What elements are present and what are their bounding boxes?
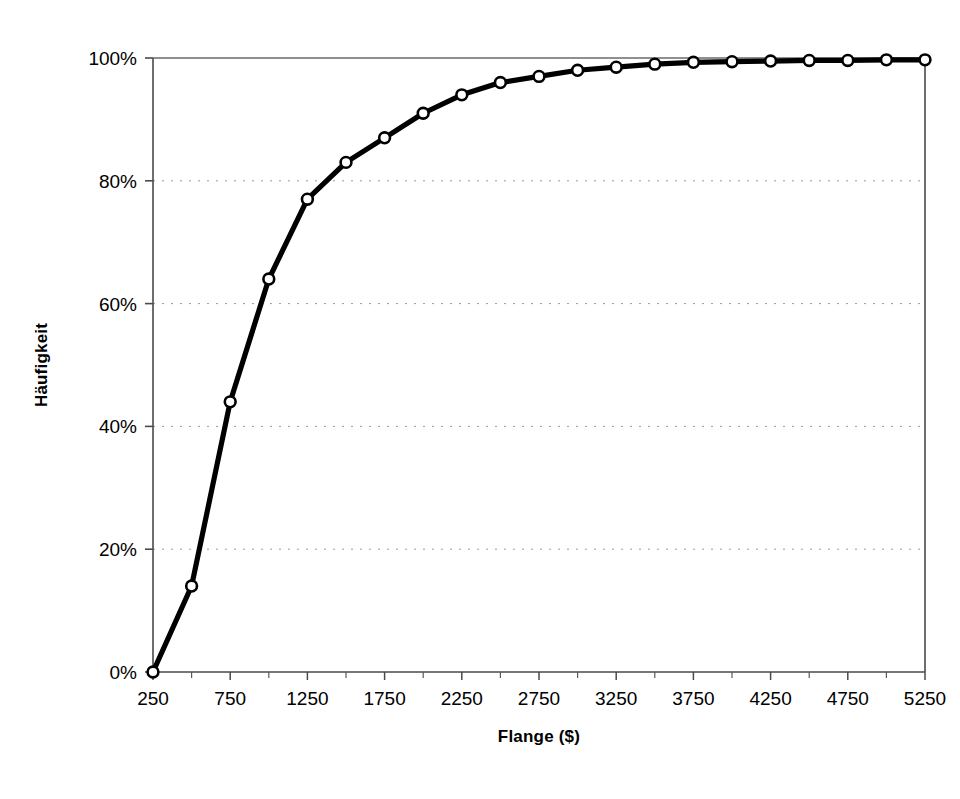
data-point-marker[interactable] [186, 581, 197, 592]
x-axis-tick-label: 3250 [595, 688, 637, 709]
y-axis-tick-label: 60% [99, 294, 137, 315]
x-axis-tick-label: 3750 [672, 688, 714, 709]
data-point-marker[interactable] [534, 71, 545, 82]
y-axis-tick-label: 100% [88, 48, 137, 69]
data-point-marker[interactable] [495, 77, 506, 88]
x-axis-tick-label: 2250 [441, 688, 483, 709]
data-point-marker[interactable] [302, 194, 313, 205]
data-point-marker[interactable] [572, 65, 583, 76]
y-axis-tick-label: 20% [99, 539, 137, 560]
data-point-marker[interactable] [727, 56, 738, 67]
data-point-marker[interactable] [881, 54, 892, 65]
y-axis-title: Häufigkeit [32, 323, 51, 407]
data-point-marker[interactable] [341, 157, 352, 168]
data-point-marker[interactable] [611, 62, 622, 73]
data-point-marker[interactable] [804, 55, 815, 66]
y-axis-tick-label: 80% [99, 171, 137, 192]
x-axis-title: Flange ($) [498, 727, 580, 746]
x-axis-tick-label: 750 [214, 688, 246, 709]
data-point-marker[interactable] [649, 59, 660, 70]
data-point-marker[interactable] [418, 108, 429, 119]
x-axis-tick-label: 4750 [827, 688, 869, 709]
y-axis-tick-label: 40% [99, 416, 137, 437]
chart-container: 0%20%40%60%80%100%2507501250175022502750… [0, 0, 960, 799]
data-point-marker[interactable] [765, 56, 776, 67]
data-point-marker[interactable] [688, 57, 699, 68]
x-axis-tick-label: 250 [137, 688, 169, 709]
x-axis-tick-label: 5250 [904, 688, 946, 709]
data-point-marker[interactable] [225, 396, 236, 407]
y-axis-tick-label: 0% [110, 662, 138, 683]
data-point-marker[interactable] [263, 274, 274, 285]
x-axis-tick-label: 4250 [749, 688, 791, 709]
data-point-marker[interactable] [456, 89, 467, 100]
data-point-marker[interactable] [148, 667, 159, 678]
data-point-marker[interactable] [842, 55, 853, 66]
x-axis-tick-label: 1250 [286, 688, 328, 709]
cumulative-frequency-chart: 0%20%40%60%80%100%2507501250175022502750… [0, 0, 960, 799]
data-series-line [153, 60, 925, 672]
x-axis-tick-label: 2750 [518, 688, 560, 709]
x-axis-tick-label: 1750 [363, 688, 405, 709]
data-point-marker[interactable] [920, 54, 931, 65]
data-point-marker[interactable] [379, 132, 390, 143]
